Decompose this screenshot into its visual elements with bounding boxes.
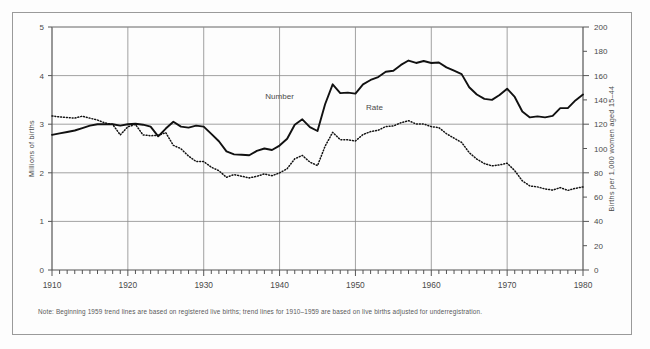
series-label-rate: Rate [366, 103, 383, 112]
figure-note: Note: Beginning 1959 trend lines are bas… [38, 308, 482, 315]
tick-label-right-axis: 60 [594, 193, 603, 202]
tick-label-x-axis: 1930 [194, 280, 213, 290]
tick-label-x-axis: 1950 [346, 280, 365, 290]
tick-label-x-axis: 1960 [422, 280, 441, 290]
tick-label-right-axis: 180 [594, 47, 608, 56]
chart-canvas: 0123450204060801001201401601802001910192… [0, 0, 650, 349]
series-line-number [52, 61, 583, 156]
tick-label-right-axis: 100 [594, 145, 608, 154]
tick-label-x-axis: 1940 [270, 280, 289, 290]
tick-label-right-axis: 20 [594, 242, 603, 251]
tick-label-right-axis: 140 [594, 96, 608, 105]
tick-label-right-axis: 200 [594, 23, 608, 32]
tick-label-x-axis: 1920 [119, 280, 138, 290]
left-axis-title: Millions of births [27, 120, 36, 177]
tick-label-left-axis: 3 [40, 120, 45, 129]
series-label-number: Number [265, 92, 294, 101]
tick-label-left-axis: 4 [40, 72, 45, 81]
series-line-rate [52, 116, 583, 190]
tick-label-x-axis: 1910 [43, 280, 62, 290]
tick-label-x-axis: 1980 [574, 280, 593, 290]
tick-label-right-axis: 40 [594, 217, 603, 226]
birth-trends-chart: 0123450204060801001201401601802001910192… [0, 0, 650, 349]
tick-label-right-axis: 0 [594, 266, 599, 275]
tick-label-left-axis: 5 [40, 23, 45, 32]
tick-label-left-axis: 1 [40, 217, 45, 226]
tick-label-right-axis: 160 [594, 72, 608, 81]
tick-label-left-axis: 0 [40, 266, 45, 275]
tick-label-right-axis: 80 [594, 169, 603, 178]
tick-label-right-axis: 120 [594, 120, 608, 129]
tick-label-left-axis: 2 [40, 169, 45, 178]
right-axis-title: Births per 1,000 women aged 15–44 [607, 86, 616, 212]
tick-label-x-axis: 1970 [498, 280, 517, 290]
